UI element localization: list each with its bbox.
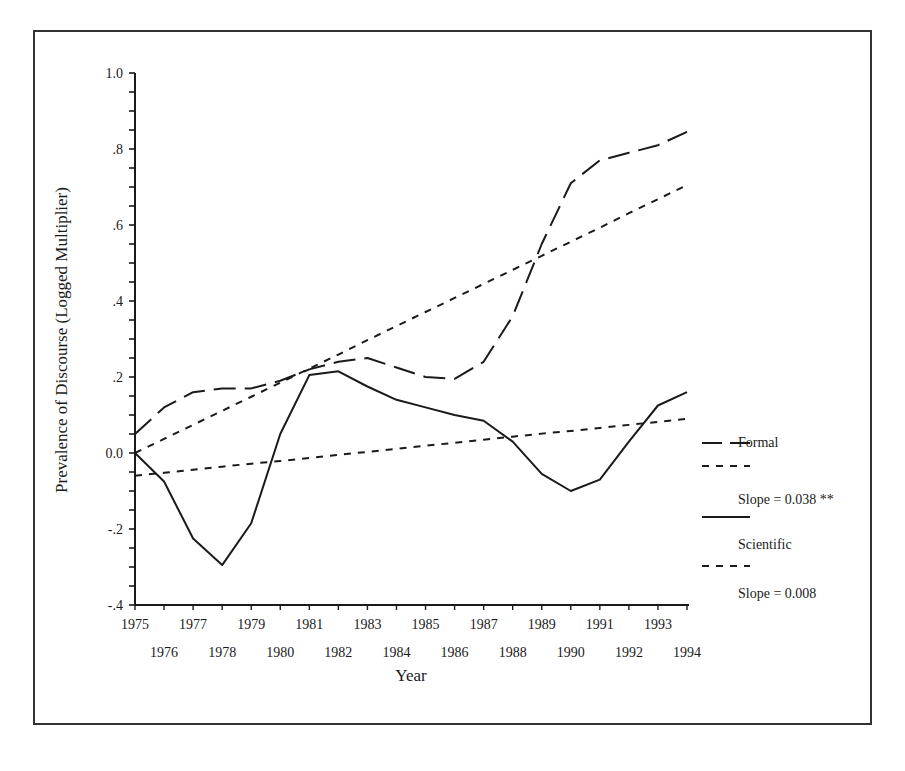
y-tick-label: .4: [113, 294, 124, 309]
legend-label-scientific: Scientific: [738, 537, 792, 553]
x-tick-label: 1979: [237, 617, 265, 632]
y-tick-label: .6: [113, 218, 124, 233]
x-axis-label: Year: [395, 666, 426, 686]
x-tick-label: 1990: [557, 645, 585, 660]
x-tick-label: 1978: [208, 645, 236, 660]
x-tick-label: 1986: [441, 645, 469, 660]
y-tick-label: 0.0: [106, 446, 124, 461]
x-tick-label: 1987: [470, 617, 498, 632]
y-axis-label: Prevalence of Discourse (Logged Multipli…: [52, 187, 72, 493]
x-tick-label: 1988: [499, 645, 527, 660]
x-tick-label: 1985: [412, 617, 440, 632]
x-tick-label: 1994: [673, 645, 701, 660]
y-tick-label: .8: [113, 142, 124, 157]
y-tick-label: 1.0: [106, 66, 124, 81]
x-tick-label: 1993: [644, 617, 672, 632]
line-chart: -.4-.20.0.2.4.6.81.019751977197919811983…: [0, 0, 905, 771]
x-tick-label: 1984: [382, 645, 410, 660]
legend-label-scientific-slope: Slope = 0.008: [738, 586, 816, 602]
x-tick-label: 1989: [528, 617, 556, 632]
x-tick-label: 1975: [121, 617, 149, 632]
x-tick-label: 1976: [150, 645, 178, 660]
series-line-0: [135, 132, 687, 434]
x-tick-label: 1983: [353, 617, 381, 632]
series-line-3: [135, 419, 687, 476]
legend-label-formal: Formal: [738, 435, 778, 451]
legend-label-formal-slope: Slope = 0.038 **: [738, 492, 834, 508]
y-tick-label: -.2: [108, 522, 123, 537]
series-line-1: [135, 185, 687, 453]
x-tick-label: 1980: [266, 645, 294, 660]
x-tick-label: 1977: [179, 617, 207, 632]
y-tick-label: -.4: [108, 598, 123, 613]
x-tick-label: 1991: [586, 617, 614, 632]
y-tick-label: .2: [113, 370, 124, 385]
x-tick-label: 1982: [324, 645, 352, 660]
series-line-2: [135, 371, 687, 565]
x-tick-label: 1992: [615, 645, 643, 660]
x-tick-label: 1981: [295, 617, 323, 632]
